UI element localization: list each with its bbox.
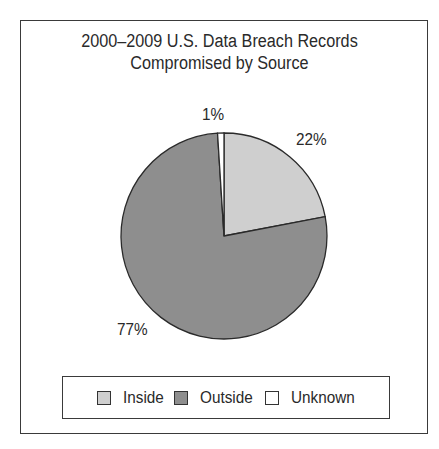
legend-item-unknown: Unknown <box>265 388 356 408</box>
legend-swatch-inside <box>97 391 111 405</box>
legend-item-outside: Outside <box>174 388 253 408</box>
slice-label-inside: 22% <box>296 130 327 150</box>
legend-label-unknown: Unknown <box>291 388 355 408</box>
chart-legend: Inside Outside Unknown <box>62 376 390 419</box>
legend-item-inside: Inside <box>97 388 162 408</box>
slice-label-unknown: 1% <box>202 105 224 125</box>
legend-label-inside: Inside <box>123 388 164 408</box>
legend-swatch-outside <box>174 391 188 405</box>
legend-swatch-unknown <box>265 391 279 405</box>
legend-label-outside: Outside <box>200 388 253 408</box>
slice-label-outside: 77% <box>117 320 148 340</box>
